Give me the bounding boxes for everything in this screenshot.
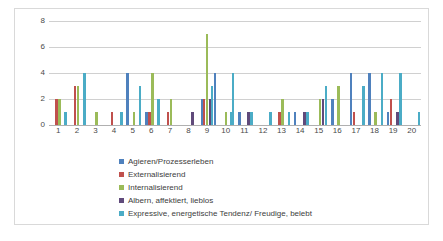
x-axis-tick-label: 6 — [149, 127, 153, 135]
bar-group — [294, 21, 310, 125]
x-axis-tick-label: 13 — [277, 127, 286, 135]
legend-swatch-icon — [119, 211, 124, 216]
bar — [306, 112, 309, 125]
bar-group — [108, 21, 124, 125]
x-axis-tick-label: 3 — [93, 127, 97, 135]
x-axis-tick-label: 10 — [221, 127, 230, 135]
bar — [111, 112, 114, 125]
bar — [133, 112, 136, 125]
bar — [418, 112, 421, 125]
bar-group — [257, 21, 273, 125]
bar — [83, 73, 86, 125]
bar-group — [387, 21, 403, 125]
bar-group — [89, 21, 105, 125]
bar — [331, 99, 334, 125]
bar-group — [275, 21, 291, 125]
bar — [399, 73, 402, 125]
bar-group — [145, 21, 161, 125]
x-axis-tick-label: 5 — [130, 127, 134, 135]
bar — [64, 112, 67, 125]
legend-item-label: Agieren/Prozesserleben — [128, 158, 213, 166]
bar — [232, 73, 234, 125]
bar — [353, 112, 356, 125]
y-axis-tick-label: 4 — [41, 69, 45, 77]
bar — [362, 86, 365, 125]
bar — [139, 86, 142, 125]
y-axis-tick-label: 2 — [41, 95, 45, 103]
bars-layer — [49, 21, 421, 125]
bar — [214, 73, 216, 125]
bar — [337, 86, 340, 125]
legend-swatch-icon — [119, 172, 124, 177]
bar — [77, 86, 80, 125]
x-axis-tick-label: 2 — [75, 127, 79, 135]
x-axis-tick-label: 4 — [112, 127, 116, 135]
bar — [368, 73, 371, 125]
legend-swatch-icon — [119, 185, 124, 190]
bar — [238, 112, 241, 125]
bar-group — [219, 21, 235, 125]
x-axis-tick-label: 15 — [314, 127, 323, 135]
bar — [288, 112, 291, 125]
legend-item[interactable]: Externalisierend — [119, 168, 419, 181]
bar — [126, 73, 129, 125]
bar — [151, 73, 154, 125]
bar — [250, 112, 253, 125]
y-axis-tick-label: 6 — [41, 43, 45, 51]
x-axis-tick-label: 12 — [258, 127, 267, 135]
bar-group — [331, 21, 347, 125]
legend-item-label: Albern, affektiert, lieblos — [128, 197, 213, 205]
bar — [58, 99, 61, 125]
bar-group — [238, 21, 254, 125]
x-axis-tick-label: 14 — [296, 127, 305, 135]
bar — [325, 86, 328, 125]
bar — [225, 112, 227, 125]
x-axis-tick-label: 19 — [389, 127, 398, 135]
bar — [157, 99, 160, 125]
x-axis-tick-label: 20 — [407, 127, 416, 135]
bar — [191, 112, 194, 125]
bar-group — [368, 21, 384, 125]
bar-group — [71, 21, 87, 125]
bar — [95, 112, 98, 125]
bar-group — [201, 21, 217, 125]
y-axis-tick-label: 8 — [41, 17, 45, 25]
legend-item[interactable]: Internalisierend — [119, 181, 419, 194]
legend-item-label: Externalisierend — [128, 171, 185, 179]
legend-item-label: Internalisierend — [128, 184, 183, 192]
x-axis-tick-label: 7 — [168, 127, 172, 135]
y-axis-tick-label: 0 — [41, 121, 45, 129]
bar-group — [164, 21, 180, 125]
bar — [170, 99, 173, 125]
bar — [120, 112, 123, 125]
bar-group — [182, 21, 198, 125]
legend-item[interactable]: Expressive, energetische Tendenz/ Freudi… — [119, 207, 419, 220]
legend-item-label: Expressive, energetische Tendenz/ Freudi… — [128, 210, 312, 218]
legend-swatch-icon — [119, 198, 124, 203]
x-axis-tick-label: 1 — [56, 127, 60, 135]
x-axis-tick-label: 17 — [351, 127, 360, 135]
x-axis-tick-label: 16 — [333, 127, 342, 135]
x-axis-tick-label: 8 — [186, 127, 190, 135]
bar — [269, 112, 272, 125]
plot-area: 02468 — [49, 21, 421, 125]
x-axis-tick-label: 9 — [205, 127, 209, 135]
bar — [281, 99, 284, 125]
bar — [374, 112, 377, 125]
chart-legend: Agieren/ProzesserlebenExternalisierendIn… — [119, 155, 419, 220]
bar-group — [350, 21, 366, 125]
bar-group — [126, 21, 142, 125]
x-axis-line — [49, 125, 421, 126]
bar — [381, 73, 384, 125]
bar-group — [52, 21, 68, 125]
chart-frame: 02468 1234567891011121314151617181920 Ag… — [14, 8, 429, 225]
bar-group — [312, 21, 328, 125]
legend-item[interactable]: Albern, affektiert, lieblos — [119, 194, 419, 207]
bar — [294, 112, 297, 125]
bar — [390, 99, 393, 125]
x-axis-tick-label: 18 — [370, 127, 379, 135]
x-axis-tick-label: 11 — [240, 127, 248, 135]
bar-group — [405, 21, 421, 125]
x-axis-ticks: 1234567891011121314151617181920 — [49, 127, 421, 141]
legend-item[interactable]: Agieren/Prozesserleben — [119, 155, 419, 168]
